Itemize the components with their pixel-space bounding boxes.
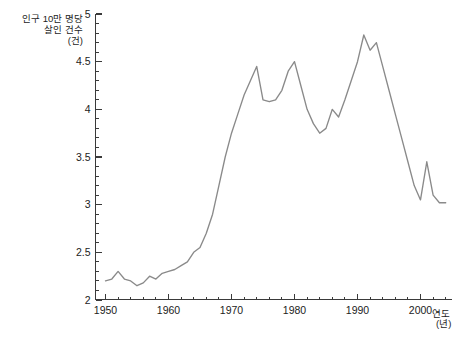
x-axis-tick-labels: 195019601970198019902000: [94, 304, 433, 316]
homicide-rate-line: [106, 35, 446, 286]
x-tick-label: 1970: [220, 304, 244, 316]
y-axis-title-line-2: 살인 건수: [44, 24, 83, 35]
y-axis-title-line-1: 인구 10만 명당: [22, 13, 83, 24]
y-tick-label: 2.5: [76, 246, 91, 258]
y-tick-label: 4.5: [76, 55, 91, 67]
y-tick-label: 3.5: [76, 151, 91, 163]
y-axis-title: 인구 10만 명당 살인 건수 (건): [22, 13, 83, 46]
y-tick-label: 3: [85, 198, 91, 210]
chart-canvas: 인구 10만 명당 살인 건수 (건) 연도 (년) 22.533.544.55…: [0, 0, 471, 339]
x-axis-title: 연도 (년): [432, 308, 451, 329]
x-axis: 195019601970198019902000: [94, 294, 452, 316]
y-axis-title-line-3: (건): [68, 35, 83, 46]
x-tick-label: 2000: [409, 304, 433, 316]
x-axis-title-line-2: (년): [436, 318, 451, 329]
y-axis: 22.533.544.55: [76, 8, 102, 306]
y-tick-label: 5: [85, 8, 91, 20]
x-tick-label: 1950: [94, 304, 118, 316]
data-series-group: [106, 35, 446, 286]
line-chart: 인구 10만 명당 살인 건수 (건) 연도 (년) 22.533.544.55…: [0, 0, 471, 339]
x-tick-label: 1990: [346, 304, 370, 316]
x-tick-label: 1980: [283, 304, 307, 316]
y-axis-major-ticks: [96, 14, 102, 300]
y-tick-label: 2: [85, 294, 91, 306]
y-tick-label: 4: [85, 103, 91, 115]
y-axis-tick-labels: 22.533.544.55: [76, 8, 91, 306]
x-tick-label: 1960: [157, 304, 181, 316]
